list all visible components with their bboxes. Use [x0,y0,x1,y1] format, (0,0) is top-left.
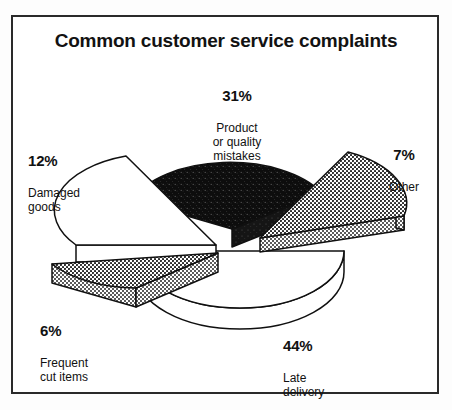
slice-value-frequent-cut-items: 6% [40,322,134,339]
slice-label-product-quality: 31% Product or quality mistakes [189,68,285,183]
slice-label-other: 7% Other [369,127,439,214]
slice-value-other: 7% [369,146,439,163]
slice-value-product-quality: 31% [189,87,285,104]
slice-label-damaged-goods: 12% Damaged goods [28,133,116,234]
slice-value-damaged-goods: 12% [28,152,116,169]
slice-name-frequent-cut-items: Frequent cut items [40,357,134,385]
slice-name-other: Other [369,181,439,195]
slice-name-damaged-goods: Damaged goods [28,187,116,215]
slice-label-late-delivery: 44% Late delivery [283,318,367,410]
slice-name-late-delivery: Late delivery [283,372,367,400]
slice-label-frequent-cut-items: 6% Frequent cut items [40,303,134,404]
slice-name-product-quality: Product or quality mistakes [189,122,285,164]
figure-container: Common customer service complaints [0,0,452,410]
slice-value-late-delivery: 44% [283,337,367,354]
